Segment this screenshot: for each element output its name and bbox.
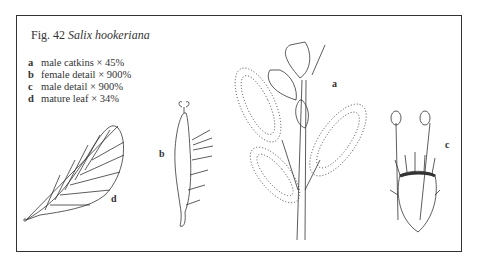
panel-label-d: d [111,193,117,204]
botanical-illustration [0,0,480,266]
catkin-right [299,95,377,184]
male-detail-drawing-c [390,111,440,232]
leaf-drawing-d [24,126,124,221]
female-detail-drawing-b [175,102,213,227]
panel-label-b: b [159,148,165,159]
panel-label-c: c [445,139,449,150]
catkin-left [226,62,291,149]
panel-label-a: a [332,78,337,89]
